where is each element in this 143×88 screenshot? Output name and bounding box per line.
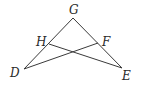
label-g: G: [69, 3, 79, 17]
label-d: D: [9, 66, 20, 80]
label-f: F: [101, 35, 111, 49]
label-e: E: [121, 69, 131, 83]
segment-gd: [24, 18, 73, 69]
label-h: H: [35, 35, 47, 49]
geometry-diagram: G H F D E: [0, 0, 143, 88]
